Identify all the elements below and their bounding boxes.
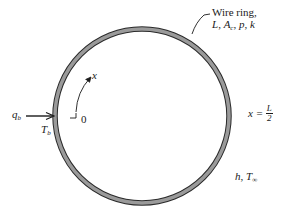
coordinate-arrow: [76, 77, 91, 112]
ring-leader-line: [192, 14, 210, 34]
ring-label-title: Wire ring,: [212, 6, 257, 18]
midpoint-prefix: x =: [248, 108, 266, 119]
t-sub: b: [47, 129, 51, 137]
base-temperature-label: Tb: [41, 124, 51, 135]
heat-input-arrow: [26, 113, 54, 120]
origin-label: 0: [81, 114, 87, 125]
t-inf-sub: ∞: [252, 176, 257, 184]
ring-label-line1: Wire ring,: [212, 7, 257, 18]
origin-tick: [70, 113, 76, 118]
q-sub: b: [18, 114, 22, 122]
convection-label: h, T∞: [235, 171, 257, 182]
fraction-denominator: 2: [267, 114, 272, 123]
midpoint-label: x = L 2: [248, 104, 273, 123]
coordinate-label: x: [92, 70, 97, 81]
ring-label-properties: L, Ac, p, k: [212, 19, 255, 30]
midpoint-fraction: L 2: [266, 104, 273, 123]
var-conductivity: k: [250, 18, 255, 30]
heat-input-label: qb: [12, 109, 21, 120]
diagram-canvas: [0, 0, 283, 219]
